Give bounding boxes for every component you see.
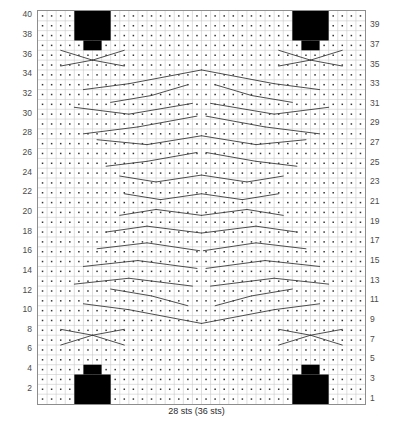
row-number-8: 8 [6,325,32,334]
row-number-26: 26 [6,148,32,157]
row-number-32: 32 [6,89,32,98]
row-number-28: 28 [6,128,32,137]
row-number-12: 12 [6,286,32,295]
row-number-40: 40 [6,10,32,19]
row-number-21: 21 [370,197,390,206]
row-number-35: 35 [370,60,390,69]
row-number-13: 13 [370,276,390,285]
row-number-17: 17 [370,236,390,245]
row-number-36: 36 [6,50,32,59]
row-number-18: 18 [6,227,32,236]
row-number-23: 23 [370,177,390,186]
row-number-22: 22 [6,187,32,196]
row-number-16: 16 [6,246,32,255]
row-number-7: 7 [370,335,390,344]
row-number-39: 39 [370,20,390,29]
row-number-31: 31 [370,99,390,108]
row-number-37: 37 [370,40,390,49]
row-number-2: 2 [6,384,32,393]
row-number-29: 29 [370,118,390,127]
row-number-11: 11 [370,295,390,304]
row-number-9: 9 [370,315,390,324]
row-number-34: 34 [6,69,32,78]
chart-grid-svg [38,11,365,404]
row-number-6: 6 [6,344,32,353]
row-number-3: 3 [370,374,390,383]
chart-caption: 28 sts (36 sts) [0,406,393,416]
knitting-chart: 403836343230282624222018161412108642 393… [0,0,393,422]
row-number-1: 1 [370,394,390,403]
row-number-30: 30 [6,109,32,118]
row-number-25: 25 [370,158,390,167]
row-number-5: 5 [370,354,390,363]
chart-grid[interactable] [37,10,366,405]
row-number-15: 15 [370,256,390,265]
row-number-19: 19 [370,217,390,226]
row-number-10: 10 [6,305,32,314]
row-number-4: 4 [6,364,32,373]
row-number-33: 33 [370,79,390,88]
row-number-27: 27 [370,138,390,147]
row-number-20: 20 [6,207,32,216]
row-number-38: 38 [6,30,32,39]
row-number-24: 24 [6,168,32,177]
row-number-14: 14 [6,266,32,275]
